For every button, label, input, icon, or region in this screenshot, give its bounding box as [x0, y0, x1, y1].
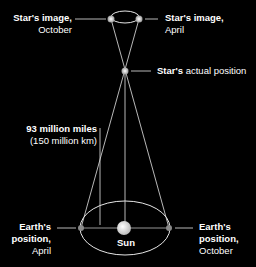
label-line: position,: [11, 233, 51, 245]
label-star-actual-position: Star's actual position: [157, 65, 246, 77]
label-line: October: [199, 245, 239, 257]
sun-icon: [117, 221, 131, 235]
star-image-october-point: [108, 16, 115, 23]
earth-october-point: [166, 225, 172, 231]
sightline-october: [111, 19, 169, 228]
star-image-april-point: [136, 16, 143, 23]
label-line: October: [13, 24, 72, 36]
label-line: April: [165, 24, 224, 36]
label-rest: actual position: [183, 65, 246, 76]
star-actual-point: [122, 68, 129, 75]
label-earth-april: Earth's position, April: [11, 221, 51, 257]
parallax-diagram: Star's image, October Star's image, Apri…: [0, 0, 256, 267]
star-image-ellipse: [111, 11, 139, 23]
earth-april-point: [78, 225, 84, 231]
label-line: Earth's: [11, 221, 51, 233]
label-distance: 93 million miles (150 million km): [26, 123, 97, 147]
label-star-image-april: Star's image, April: [165, 12, 224, 36]
label-bold: Star's: [157, 65, 183, 76]
label-line: (150 million km): [26, 135, 97, 147]
label-line: position,: [199, 233, 239, 245]
label-line: 93 million miles: [26, 123, 97, 135]
label-line: Earth's: [199, 221, 239, 233]
label-star-image-october: Star's image, October: [13, 12, 72, 36]
label-earth-october: Earth's position, October: [199, 221, 239, 257]
label-line: Star's image,: [13, 12, 72, 24]
label-line: April: [11, 245, 51, 257]
label-line: Star's image,: [165, 12, 224, 24]
label-sun: Sun: [117, 237, 135, 249]
